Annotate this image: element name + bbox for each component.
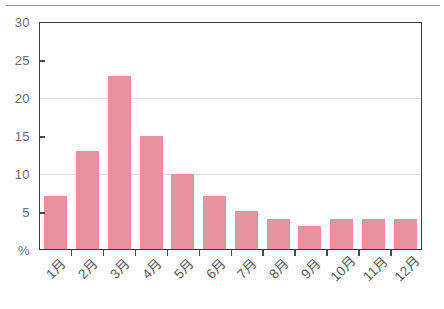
y-axis-label-percent: % <box>18 243 30 258</box>
y-axis-label-5: 5 <box>22 205 30 220</box>
y-axis-tick-15 <box>39 136 45 138</box>
bar-12月[interactable] <box>394 219 417 249</box>
bar-3月[interactable] <box>108 76 131 249</box>
bar-11月[interactable] <box>362 219 385 249</box>
bar-5月[interactable] <box>171 174 194 249</box>
x-axis-label-3月: 3月 <box>104 254 133 283</box>
page-top-rule <box>6 5 440 6</box>
bar-slot <box>199 23 231 249</box>
bar-slot <box>167 23 199 249</box>
y-axis-label-25: 25 <box>15 52 30 67</box>
bar-10月[interactable] <box>330 219 353 249</box>
bar-slot <box>104 23 136 249</box>
x-axis-label-1月: 1月 <box>40 254 69 283</box>
bar-chart-figure: 30252015105% 1月2月3月4月5月6月7月8月9月10月11月12月 <box>0 0 444 309</box>
y-axis-label-group: 30252015105% <box>0 22 35 250</box>
bar-6月[interactable] <box>203 196 226 249</box>
x-axis-label-8月: 8月 <box>264 254 293 283</box>
bar-slot <box>231 23 263 249</box>
x-axis-label-11月: 11月 <box>357 251 391 285</box>
bar-8月[interactable] <box>267 219 290 249</box>
bar-slot <box>389 23 421 249</box>
bar-4月[interactable] <box>140 136 163 249</box>
bar-1月[interactable] <box>44 196 67 249</box>
y-axis-label-20: 20 <box>15 90 30 105</box>
bar-slot <box>72 23 104 249</box>
y-axis-tick-5 <box>39 212 45 214</box>
bar-slot <box>135 23 167 249</box>
bar-2月[interactable] <box>76 151 99 249</box>
x-axis-label-5月: 5月 <box>168 254 197 283</box>
bar-7月[interactable] <box>235 211 258 249</box>
bar-9月[interactable] <box>298 226 321 249</box>
bar-slot <box>262 23 294 249</box>
y-axis-label-15: 15 <box>15 129 30 144</box>
bar-slot <box>326 23 358 249</box>
y-axis-label-30: 30 <box>15 15 30 30</box>
bar-slot <box>294 23 326 249</box>
x-axis-label-2月: 2月 <box>72 254 101 283</box>
x-axis-label-4月: 4月 <box>136 254 165 283</box>
plot-area <box>39 22 422 250</box>
bar-series-group <box>40 23 421 249</box>
x-axis-label-12月: 12月 <box>389 251 423 285</box>
x-axis-label-10月: 10月 <box>325 251 359 285</box>
x-axis-label-6月: 6月 <box>200 254 229 283</box>
y-axis-tick-25 <box>39 60 45 62</box>
bar-slot <box>358 23 390 249</box>
x-axis-label-9月: 9月 <box>296 254 325 283</box>
x-axis-label-group: 1月2月3月4月5月6月7月8月9月10月11月12月 <box>39 252 422 300</box>
y-axis-label-10: 10 <box>15 166 30 181</box>
x-axis-label-7月: 7月 <box>232 254 261 283</box>
